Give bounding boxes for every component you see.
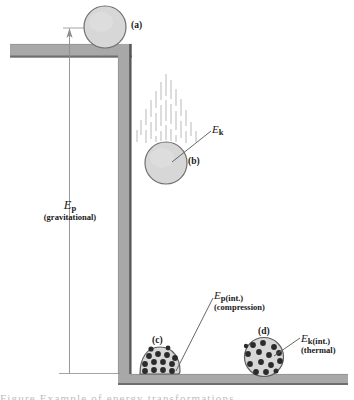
label-internal-kinetic-energy: Ek(int.) (thermal) — [301, 329, 335, 355]
subscript-k: k — [219, 127, 224, 137]
cut-off-caption: Figure Example of energy transformations — [0, 392, 354, 400]
label-internal-potential-energy: Ep(int.) (compression) — [214, 286, 265, 312]
label-kinetic-energy: Ek — [212, 120, 223, 137]
ball-b — [145, 142, 187, 184]
symbol-E-thermal: E — [301, 332, 308, 344]
ball-b-shading — [150, 148, 174, 168]
symbol-E-compression: E — [214, 289, 221, 301]
label-part-c: (c) — [152, 336, 163, 346]
leader-line-compression — [176, 298, 213, 371]
label-gravitational-potential-energy: Ep (gravitational) — [26, 196, 114, 222]
floor-bottom-edge — [118, 383, 348, 385]
qualifier-compression: (compression) — [214, 303, 265, 312]
vertical-wall — [118, 44, 131, 374]
top-shelf-bottom-edge — [10, 56, 132, 58]
ball-d — [244, 338, 284, 377]
label-part-d: (d) — [258, 327, 270, 337]
symbol-E-kinetic: E — [212, 123, 219, 135]
label-part-a: (a) — [131, 21, 142, 31]
vertical-wall-right-edge — [129, 44, 131, 374]
qualifier-gravitational: (gravitational) — [26, 213, 114, 222]
ball-a — [84, 6, 126, 48]
ball-a-shading — [89, 12, 113, 32]
qualifier-thermal: (thermal) — [301, 346, 335, 355]
physics-energy-diagram: (a) (b) (c) (d) Ep (gravitational) Ek Ep… — [0, 0, 354, 400]
label-part-b: (b) — [188, 157, 200, 167]
motion-speed-lines — [137, 74, 196, 143]
ball-c — [140, 346, 180, 374]
